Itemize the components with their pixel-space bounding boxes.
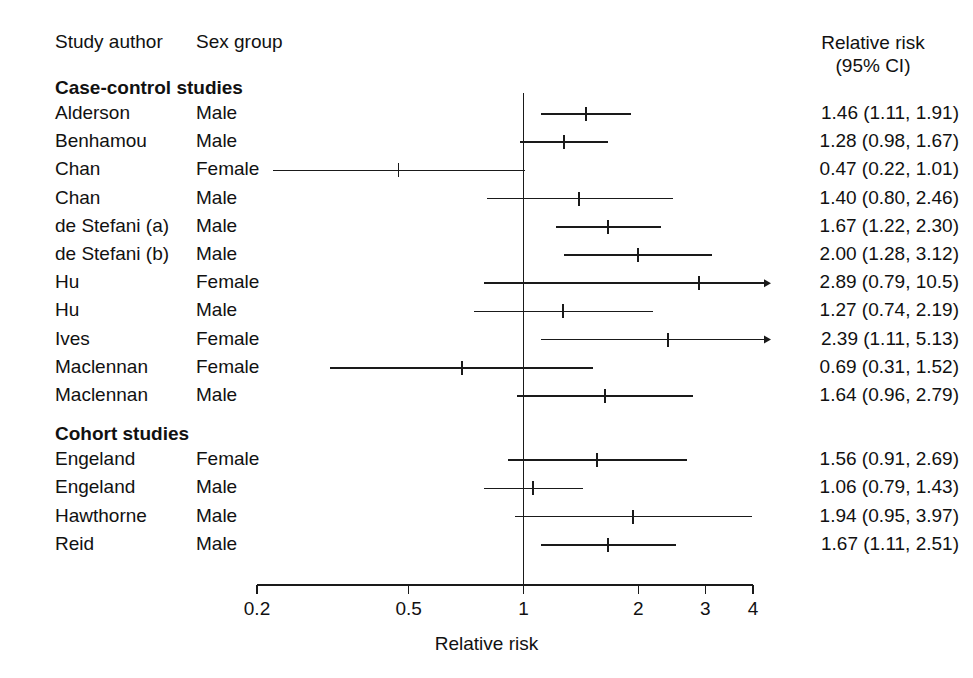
ci-arrow-right-icon <box>764 336 771 344</box>
forest-plot-graphic <box>0 0 973 678</box>
x-axis-label: Relative risk <box>0 633 973 655</box>
ci-arrow-right-icon <box>764 279 771 287</box>
forest-plot: Study author Sex group Relative risk (95… <box>0 0 973 678</box>
